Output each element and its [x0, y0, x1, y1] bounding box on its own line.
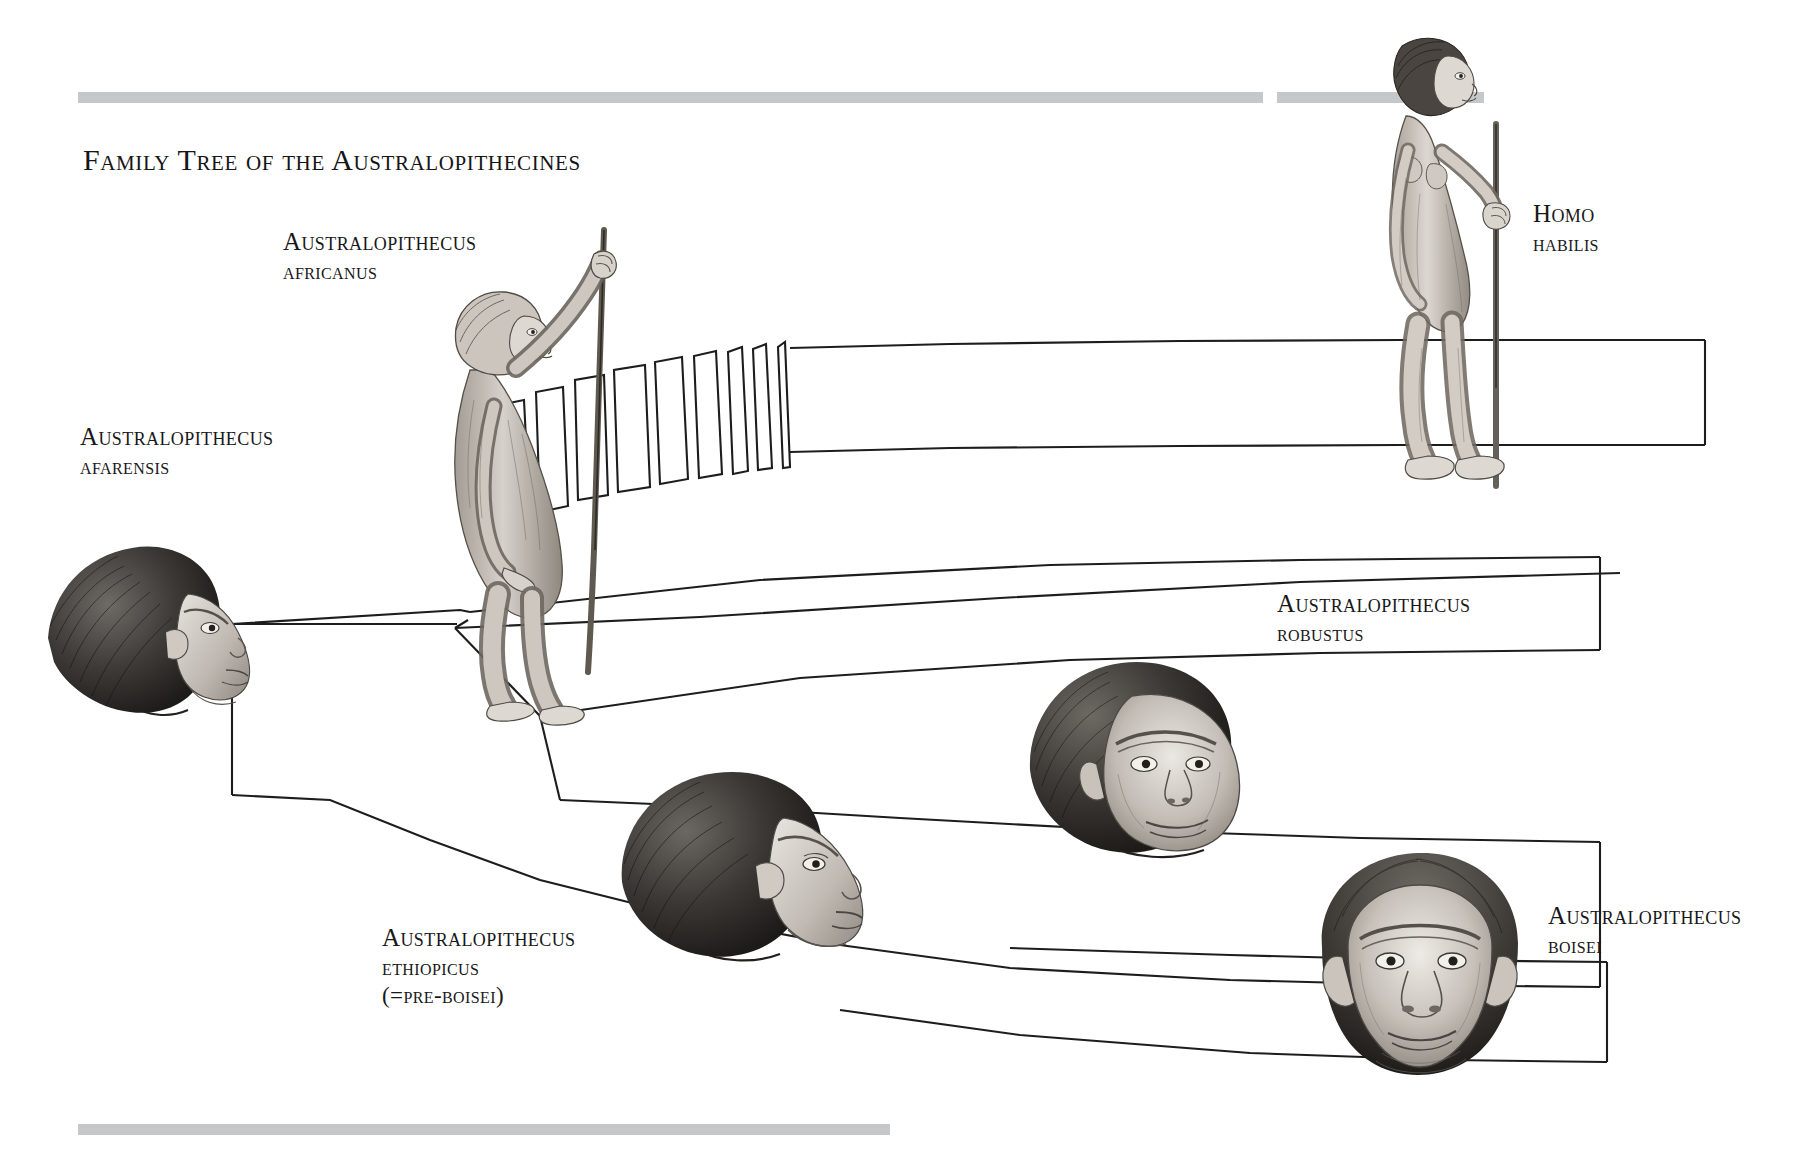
label-ethiopicus-synonym: (=pre-boisei) — [382, 982, 575, 1011]
label-africanus-genus: Australopithecus — [283, 226, 476, 258]
illustration-robustus — [1020, 640, 1290, 870]
label-afarensis-species: afarensis — [80, 453, 273, 482]
label-africanus-species: africanus — [283, 258, 476, 287]
label-robustus-genus: Australopithecus — [1277, 588, 1470, 620]
illustration-boisei — [1290, 835, 1550, 1085]
label-ethiopicus-species: ethiopicus — [382, 954, 575, 983]
label-habilis: Homo habilis — [1533, 198, 1599, 258]
label-boisei-species: boisei — [1548, 932, 1741, 961]
family-tree-diagram: Family Tree of the Australopithecines Au… — [0, 0, 1803, 1164]
illustration-africanus — [398, 220, 698, 730]
label-habilis-genus: Homo — [1533, 198, 1599, 230]
label-ethiopicus-genus: Australopithecus — [382, 922, 575, 954]
label-afarensis: Australopithecus afarensis — [80, 421, 273, 481]
label-afarensis-genus: Australopithecus — [80, 421, 273, 453]
illustration-afarensis — [38, 520, 288, 720]
label-africanus: Australopithecus africanus — [283, 226, 476, 286]
label-robustus-species: robustus — [1277, 620, 1470, 649]
illustration-habilis — [1350, 28, 1580, 518]
label-boisei-genus: Australopithecus — [1548, 900, 1741, 932]
page-title: Family Tree of the Australopithecines — [83, 143, 581, 177]
label-ethiopicus: Australopithecus ethiopicus (=pre-boisei… — [382, 922, 575, 1011]
label-robustus: Australopithecus robustus — [1277, 588, 1470, 648]
label-boisei: Australopithecus boisei — [1548, 900, 1741, 960]
illustration-ethiopicus — [608, 740, 908, 980]
label-habilis-species: habilis — [1533, 230, 1599, 259]
